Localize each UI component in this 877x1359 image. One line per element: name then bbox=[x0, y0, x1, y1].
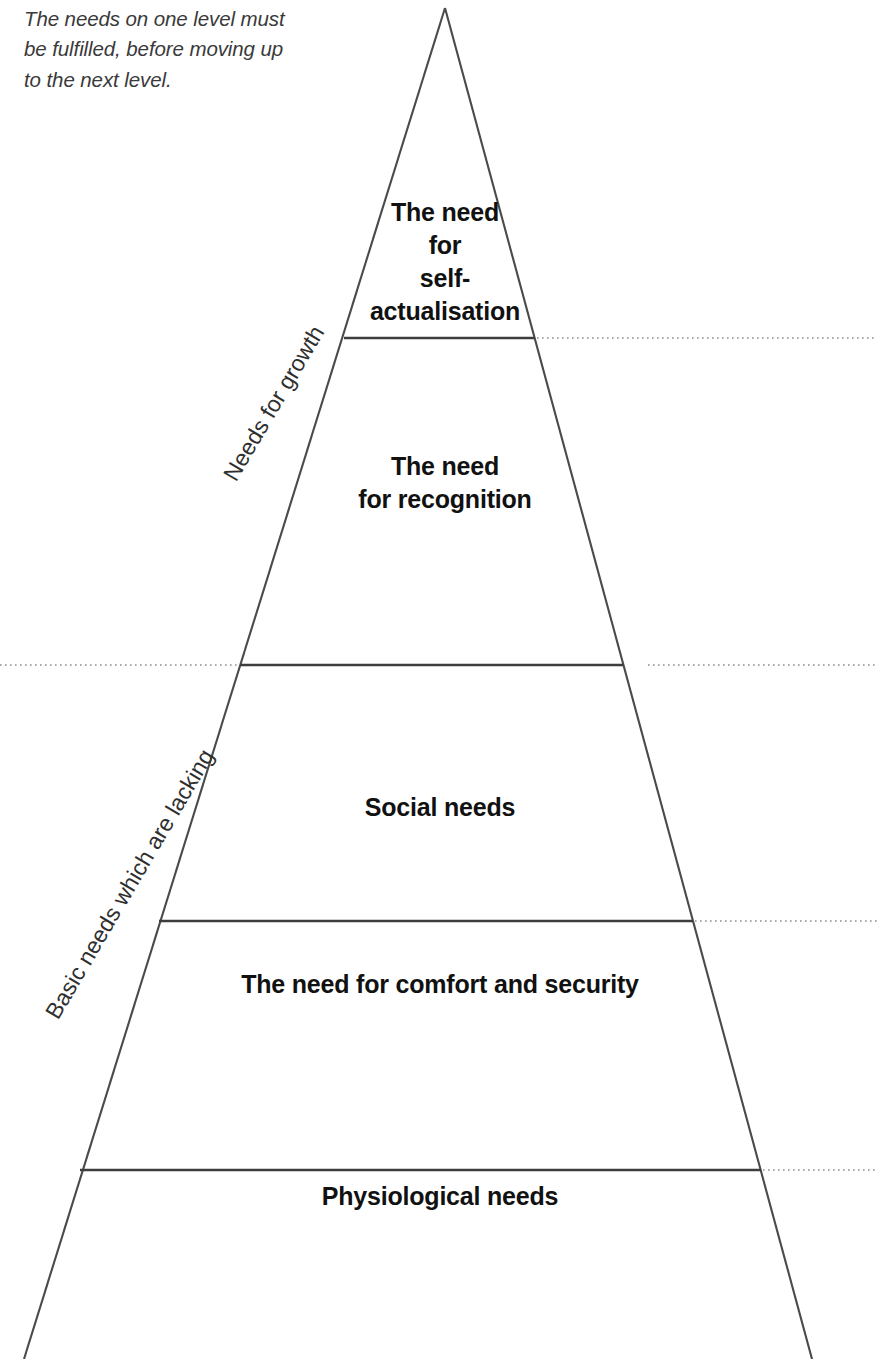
tier-label-physiological: Physiological needs bbox=[155, 1182, 725, 1212]
tier-label-social: Social needs bbox=[230, 793, 650, 823]
tier-label-comfort-security: The need for comfort and security bbox=[155, 970, 725, 1000]
tier-label-recognition: The need for recognition bbox=[300, 450, 590, 517]
tier-label-self-actualisation: The need for self- actualisation bbox=[345, 196, 545, 328]
diagram-canvas: The needs on one level must be fulfilled… bbox=[0, 0, 877, 1359]
